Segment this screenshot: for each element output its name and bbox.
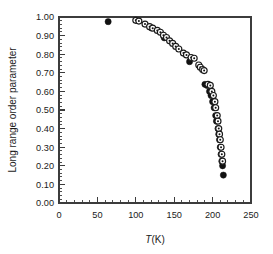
y-tick-label: 0.40 — [36, 124, 54, 134]
y-tick-label: 1.00 — [36, 12, 54, 22]
y-axis-ticks — [59, 17, 65, 203]
x-tick-label: 50 — [92, 210, 102, 220]
y-tick-label: 0.70 — [36, 68, 54, 78]
x-axis-ticks — [59, 197, 251, 203]
data-point-open-center-dot — [144, 23, 146, 25]
data-point-open-center-dot — [219, 133, 221, 135]
data-point-open-center-dot — [217, 120, 219, 122]
series-open-circles-with-center-dot — [133, 17, 226, 164]
x-tick-label: 200 — [205, 210, 220, 220]
x-axis-tick-labels: 050100150200250 — [56, 210, 258, 220]
data-point-open-center-dot — [178, 48, 180, 50]
y-axis-tick-labels: 0.000.100.200.300.400.500.600.700.800.90… — [36, 12, 54, 208]
x-tick-label: 150 — [167, 210, 182, 220]
data-point-open-center-dot — [219, 139, 221, 141]
data-point-open-center-dot — [203, 70, 205, 72]
data-point-open-center-dot — [215, 107, 217, 109]
data-point-open-center-dot — [138, 20, 140, 22]
x-tick-label: 250 — [243, 210, 258, 220]
data-point-open-center-dot — [220, 146, 222, 148]
y-tick-label: 0.10 — [36, 180, 54, 190]
y-tick-label: 0.80 — [36, 50, 54, 60]
x-tick-label: 100 — [128, 210, 143, 220]
data-point-open-center-dot — [216, 115, 218, 117]
series-filled-circles — [105, 19, 226, 179]
y-tick-label: 0.90 — [36, 31, 54, 41]
y-tick-label: 0.50 — [36, 105, 54, 115]
data-point-open-center-dot — [193, 57, 195, 59]
y-axis-title: Long range order parameter — [7, 47, 18, 173]
y-tick-label: 0.00 — [36, 198, 54, 208]
x-axis-title: T(K) — [145, 234, 164, 245]
data-point-open-center-dot — [218, 128, 220, 130]
chart-figure: 050100150200250 0.000.100.200.300.400.50… — [0, 0, 273, 254]
y-tick-label: 0.30 — [36, 143, 54, 153]
data-point-open-center-dot — [214, 101, 216, 103]
data-point-filled — [220, 172, 226, 178]
long-range-order-parameter-scatter-chart: 050100150200250 0.000.100.200.300.400.50… — [0, 0, 273, 254]
x-tick-label: 0 — [56, 210, 61, 220]
data-point-open-center-dot — [185, 54, 187, 56]
data-point-open-center-dot — [152, 27, 154, 29]
data-point-open-center-dot — [221, 153, 223, 155]
y-tick-label: 0.20 — [36, 161, 54, 171]
data-point-open-center-dot — [222, 160, 224, 162]
data-point-open-center-dot — [209, 84, 211, 86]
data-points-layer — [105, 17, 226, 178]
data-point-open-center-dot — [212, 94, 214, 96]
y-tick-label: 0.60 — [36, 87, 54, 97]
data-point-filled — [105, 19, 111, 25]
